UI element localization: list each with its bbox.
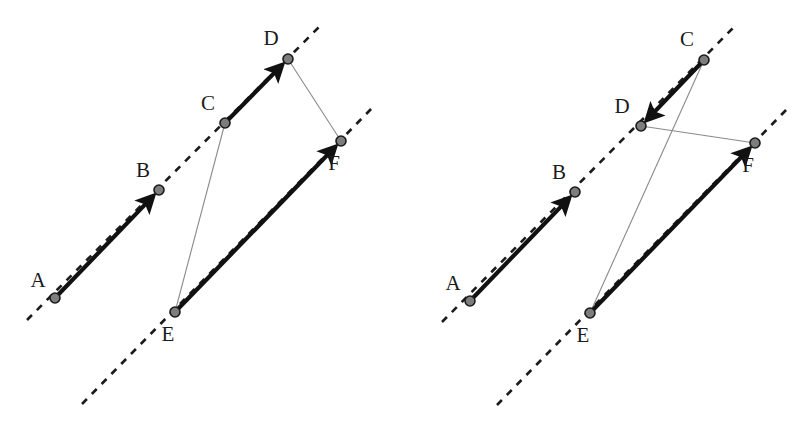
right-panel-label-A: A [445,271,461,295]
right-panel-thin-line-D-to-F [641,126,755,143]
right-panel-point-B [570,187,580,197]
right-panel-dashed-line-through-A-B-D-C [442,28,733,322]
left-panel-point-F [336,136,346,146]
right-panel-point-A [465,296,475,306]
geometry-figure: ABCDEFABCDEF [0,0,806,434]
right-panel-vector-C-to-D [648,60,704,119]
right-panel-vector-E-to-F [590,150,748,313]
points-layer [50,54,760,318]
left-panel-point-E [170,307,180,317]
left-panel-point-A [50,293,60,303]
right-panel-point-D [636,121,646,131]
left-panel-label-B: B [136,158,150,182]
right-panel-label-B: B [552,160,566,184]
left-panel-label-C: C [201,91,215,115]
left-panel-point-D [283,54,293,64]
right-panel-label-E: E [577,323,590,347]
right-panel-label-F: F [742,153,754,177]
right-panel-point-C [699,55,709,65]
left-panel-vector-E-to-F [175,148,334,312]
point-labels-layer: ABCDEFABCDEF [30,26,753,347]
right-panel-thin-line-E-to-C [590,60,704,313]
right-panel-label-C: C [680,27,694,51]
left-panel-point-B [154,185,164,195]
left-panel-label-E: E [162,322,175,346]
right-panel-label-D: D [614,94,629,118]
left-panel-label-F: F [328,151,340,175]
dashed-lines-layer [27,26,789,405]
left-panel-label-A: A [30,268,46,292]
left-panel-point-C [220,118,230,128]
diagram-canvas: ABCDEFABCDEF [0,0,806,434]
left-panel-vector-A-to-B [55,197,152,298]
left-panel-thin-line-D-to-F [288,59,341,141]
left-panel-label-D: D [263,26,278,50]
left-panel-vector-C-to-D [225,66,281,123]
right-panel-point-F [750,138,760,148]
right-panel-vector-A-to-B [470,199,568,301]
right-panel-point-E [585,308,595,318]
